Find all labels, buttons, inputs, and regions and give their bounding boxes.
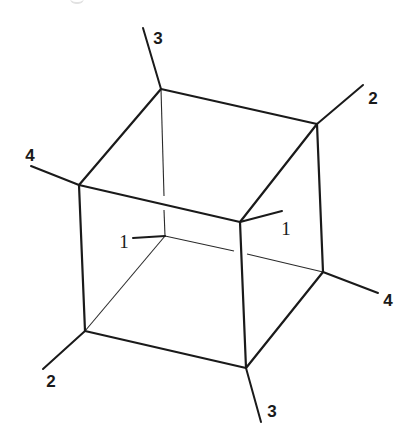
hidden-edges [85,89,323,331]
stub-4-left [31,166,79,185]
stub-2-bottom-left [43,331,85,369]
edge-top-front [79,185,240,222]
stub-3-bottom [246,368,261,422]
hidden-edge-vertical-back-lower [164,210,165,236]
stub-1-back [133,236,165,238]
diagonal-label-2-bottom-left: 2 [46,373,55,390]
diagonal-stubs [31,28,378,422]
edge-bottom-front-right [246,272,323,368]
edge-vertical-right [317,124,323,272]
diagonal-label-2-top-right: 2 [368,90,377,107]
edge-vertical-front [240,222,246,368]
hidden-edge-back-to-right-bottom-right [247,254,323,272]
diagonal-label-3-bottom: 3 [267,403,276,420]
diagonal-label-1-front: 1 [281,219,291,238]
diagonal-label-4-left: 4 [25,147,34,164]
edge-bottom-front-left [85,331,246,368]
stub-4-right [323,272,378,293]
diagonal-label-4-right: 4 [383,292,392,309]
cube-diagram [0,0,407,434]
hidden-edge-vertical-back-upper [161,89,164,196]
hidden-edge-back-to-right-bottom-left [165,236,234,251]
diagonal-label-1-back: 1 [119,232,129,251]
edge-vertical-left [79,185,85,331]
edge-top-back [161,89,317,124]
edge-top-left [79,89,161,185]
stub-2-top-right [317,85,363,124]
diagonal-label-3-top: 3 [153,30,162,47]
edge-top-right [240,124,317,222]
